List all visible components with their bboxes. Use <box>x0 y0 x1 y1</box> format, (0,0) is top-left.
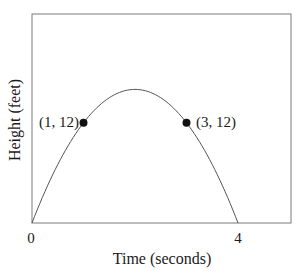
x-tick-0: 0 <box>27 230 35 246</box>
point-1-12-marker <box>80 119 88 127</box>
point-3-12-marker <box>183 119 191 127</box>
point-1-12-label: (1, 12) <box>39 114 79 131</box>
chart: (1, 12) (3, 12) 0 4 Time (seconds) Heigh… <box>0 0 300 272</box>
x-axis-label: Time (seconds) <box>113 250 212 268</box>
point-3-12-label: (3, 12) <box>196 114 236 131</box>
y-axis-label: Height (feet) <box>6 79 24 161</box>
x-tick-4: 4 <box>234 230 242 246</box>
parabola-curve <box>32 89 238 223</box>
